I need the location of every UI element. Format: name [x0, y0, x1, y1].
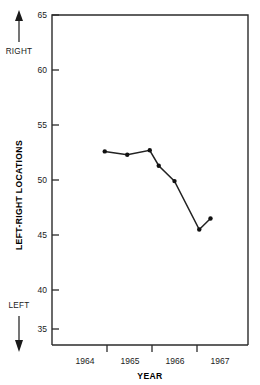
- line-chart-svg: 65 60 55 50 45 40 35 1964 1965 1966 1967…: [0, 0, 260, 385]
- left-direction-marker: LEFT: [9, 301, 30, 352]
- x-tick-label-1967: 1967: [211, 356, 230, 366]
- data-series: [103, 148, 213, 232]
- down-arrow-icon: [15, 340, 23, 352]
- y-tick-label-65: 65: [38, 10, 48, 20]
- data-point: [208, 216, 212, 220]
- y-axis-tick-labels: 65 60 55 50 45 40 35: [38, 10, 48, 334]
- data-point: [172, 179, 176, 183]
- series-line-left-right-locations: [105, 150, 211, 229]
- plot-frame: [52, 15, 248, 345]
- plot-border: [52, 15, 248, 345]
- data-point: [157, 164, 161, 168]
- chart-figure: 65 60 55 50 45 40 35 1964 1965 1966 1967…: [0, 0, 260, 385]
- y-tick-label-55: 55: [38, 120, 48, 130]
- x-axis-title: YEAR: [137, 371, 163, 381]
- up-arrow-icon: [15, 10, 23, 21]
- x-tick-label-1966: 1966: [166, 356, 185, 366]
- y-axis-title: LEFT-RIGHT LOCATIONS: [14, 140, 24, 250]
- y-tick-label-60: 60: [38, 65, 48, 75]
- data-point: [103, 149, 107, 153]
- x-tick-label-1964: 1964: [76, 356, 95, 366]
- y-axis-ticks: [52, 15, 59, 329]
- right-direction-marker: RIGHT: [6, 10, 32, 56]
- y-tick-label-40: 40: [38, 285, 48, 295]
- x-axis-ticks: [107, 345, 197, 352]
- right-label: RIGHT: [6, 47, 32, 56]
- data-point: [125, 153, 129, 157]
- x-axis-tick-labels: 1964 1965 1966 1967: [76, 356, 230, 366]
- y-tick-label-50: 50: [38, 175, 48, 185]
- y-tick-label-45: 45: [38, 230, 48, 240]
- data-point: [197, 227, 201, 231]
- x-tick-label-1965: 1965: [121, 356, 140, 366]
- data-point: [148, 148, 152, 152]
- left-label: LEFT: [9, 301, 30, 310]
- series-markers: [103, 148, 213, 232]
- y-tick-label-35: 35: [38, 324, 48, 334]
